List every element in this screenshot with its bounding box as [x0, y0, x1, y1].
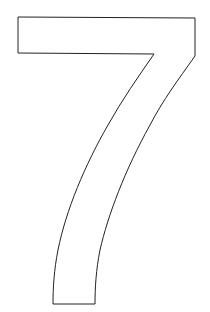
- digit-seven-drawing: [0, 0, 210, 312]
- seven-outline-path: [18, 17, 195, 304]
- seven-outline-icon: [0, 0, 210, 312]
